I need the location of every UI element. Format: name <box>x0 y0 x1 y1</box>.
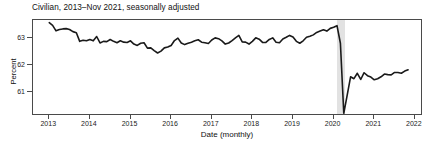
chart-container: Civilian, 2013–Nov 2021, seasonally adju… <box>0 0 434 146</box>
y-tick-label: 63 <box>17 33 25 40</box>
x-tick-label: 2017 <box>203 120 219 127</box>
x-tick-label: 2020 <box>325 120 341 127</box>
x-tick-label: 2013 <box>40 120 56 127</box>
x-tick-label: 2021 <box>365 120 381 127</box>
x-tick-label: 2019 <box>284 120 300 127</box>
x-axis-label: Date (monthly) <box>32 130 422 139</box>
x-tick-label: 2018 <box>244 120 260 127</box>
plot-area <box>32 19 422 115</box>
chart-title: Civilian, 2013–Nov 2021, seasonally adju… <box>32 3 199 12</box>
y-tick-label: 61 <box>17 87 25 94</box>
x-tick-label: 2015 <box>122 120 138 127</box>
y-tick-label: 62 <box>17 60 25 67</box>
y-axis-label: Percent <box>9 37 18 107</box>
x-tick-label: 2014 <box>81 120 97 127</box>
x-tick-label: 2022 <box>406 120 422 127</box>
series-line <box>33 20 423 116</box>
x-tick-label: 2016 <box>162 120 178 127</box>
